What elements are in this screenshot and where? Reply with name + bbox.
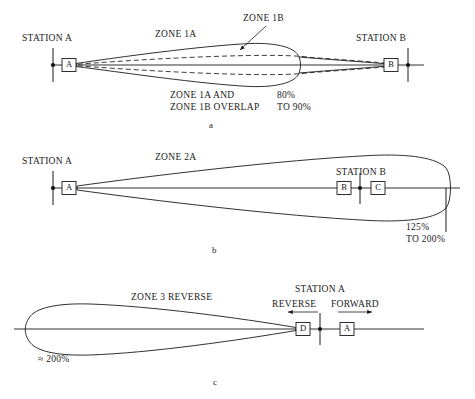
panel-a-station-b-label: STATION B: [356, 33, 406, 45]
panel-a-zone1a-label: ZONE 1A: [155, 29, 196, 41]
panel-b-box-a-label: A: [62, 182, 76, 192]
panel-c-zone3-lobe: [25, 304, 296, 355]
panel-b-pct-line2: TO 200%: [406, 234, 445, 246]
panel-a-pct-line2: TO 90%: [277, 102, 311, 114]
panel-b-pct-line1: 125%: [406, 222, 429, 234]
panel-b-station-a-label: STATION A: [22, 156, 72, 168]
figure-sheet: STATION A STATION B ZONE 1A ZONE 1B ZONE…: [0, 0, 475, 399]
panel-a-pct-line1: 80%: [277, 90, 295, 102]
panel-b-zone2a-label: ZONE 2A: [155, 152, 196, 164]
panel-a-caption: a: [209, 120, 213, 130]
panel-c-graphics: [14, 304, 424, 355]
panel-b-station-a-dot: [51, 186, 55, 190]
panel-b-station-b-label: STATION B: [336, 167, 386, 179]
panel-c-box-a-label: A: [340, 323, 354, 333]
panel-a-zone1b-leader: [240, 26, 266, 50]
panel-c-pct-label: ≈ 200%: [38, 354, 70, 366]
panel-b-station-b-dot: [358, 186, 362, 190]
panel-a-station-b-dot: [406, 63, 410, 67]
panel-c-box-d-label: D: [296, 323, 310, 333]
panel-c-forward-label: FORWARD: [331, 299, 379, 311]
panel-c-station-a-dot: [318, 327, 322, 331]
panel-c-station-a-label: STATION A: [295, 284, 345, 296]
panel-a-station-a-dot: [51, 63, 55, 67]
panel-a-ray-lower: [299, 66, 391, 73]
panel-c-reverse-label: REVERSE: [272, 299, 316, 311]
panel-a-zone1b-label: ZONE 1B: [243, 13, 284, 25]
panel-c-caption: c: [213, 377, 217, 387]
panel-c-zone3-label: ZONE 3 REVERSE: [131, 292, 212, 304]
panel-a-ray-upper: [299, 57, 391, 64]
panel-a-box-b-label: B: [384, 59, 398, 69]
panel-b-box-b-label: B: [337, 182, 351, 192]
panel-a-note-line1: ZONE 1A AND: [170, 90, 235, 102]
panel-a-box-a-label: A: [62, 59, 76, 69]
panel-a-note-line2: ZONE 1B OVERLAP: [170, 102, 259, 114]
panel-a-station-a-label: STATION A: [22, 33, 72, 45]
panel-b-graphics: [51, 155, 460, 232]
panel-b-caption: b: [212, 245, 217, 255]
panel-b-box-c-label: C: [371, 182, 385, 192]
